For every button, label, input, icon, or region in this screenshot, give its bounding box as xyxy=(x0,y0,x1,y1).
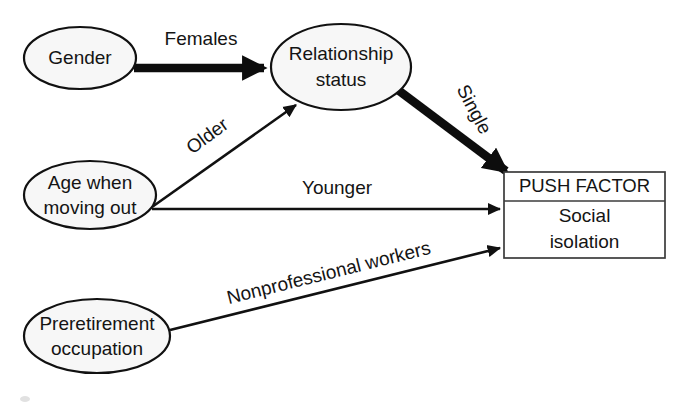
node-age-when-moving-out-label-line1: Age when xyxy=(48,172,133,193)
node-preretirement-occupation-label-line2: occupation xyxy=(51,338,143,359)
push-factor-box[interactable]: PUSH FACTOR Social isolation xyxy=(504,172,665,258)
path-diagram-canvas: Females Older Single Younger Nonprofessi… xyxy=(0,0,683,414)
edge-label-females: Females xyxy=(165,28,238,49)
push-factor-box-header: PUSH FACTOR xyxy=(519,175,650,196)
push-factor-box-body-line2: isolation xyxy=(550,231,620,252)
edge-label-younger: Younger xyxy=(302,177,373,198)
edge-age-to-relationship: Older xyxy=(152,105,296,207)
node-preretirement-occupation[interactable]: Preretirement occupation xyxy=(24,299,170,373)
node-preretirement-occupation-label-line1: Preretirement xyxy=(39,313,155,334)
edge-label-older: Older xyxy=(182,113,232,158)
node-gender[interactable]: Gender xyxy=(24,27,136,89)
scan-artifact-mark xyxy=(20,396,30,402)
diagram-svg: Females Older Single Younger Nonprofessi… xyxy=(0,0,683,414)
node-age-when-moving-out[interactable]: Age when moving out xyxy=(24,161,156,229)
edge-age-to-push: Younger xyxy=(152,177,500,209)
push-factor-box-body-line1: Social xyxy=(559,205,611,226)
node-relationship-status-ellipse xyxy=(271,24,411,110)
edge-gender-to-relationship: Females xyxy=(134,28,264,68)
node-relationship-status[interactable]: Relationship status xyxy=(271,24,411,110)
node-gender-label: Gender xyxy=(48,47,112,68)
node-relationship-status-label-line1: Relationship xyxy=(289,43,394,64)
edge-relationship-to-push: Single xyxy=(398,81,506,171)
edge-label-single: Single xyxy=(453,81,496,138)
node-preretirement-occupation-ellipse xyxy=(24,299,170,373)
node-relationship-status-label-line2: status xyxy=(316,69,367,90)
edge-preretirement-to-push: Nonprofessional workers xyxy=(170,237,500,330)
node-age-when-moving-out-label-line2: moving out xyxy=(44,197,138,218)
